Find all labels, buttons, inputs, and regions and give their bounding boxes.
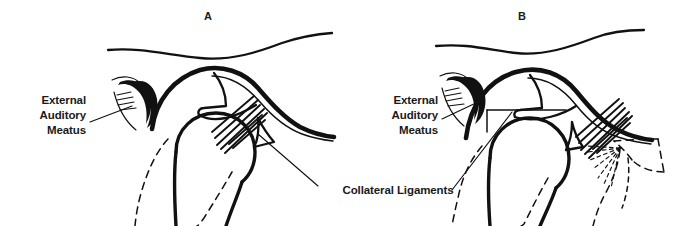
eam-right-line-1: External xyxy=(393,94,438,106)
eam-right-line-2: Auditory xyxy=(392,109,439,121)
annotation-collateral-ligaments: Collateral Ligaments xyxy=(342,184,453,196)
annotation-eam-right: External Auditory Meatus xyxy=(392,94,439,136)
eam-left-line-1: External xyxy=(41,94,86,106)
panel-letter-b: B xyxy=(518,10,526,22)
panel-letter-a: A xyxy=(204,10,212,22)
annotation-eam-left: External Auditory Meatus xyxy=(40,94,87,136)
eam-left-line-3: Meatus xyxy=(47,124,86,136)
condylar-neck-left-a xyxy=(175,152,177,226)
figure-canvas: A B External Auditory Meatus External Au… xyxy=(0,0,687,226)
anatomical-figure: A B External Auditory Meatus External Au… xyxy=(0,0,687,226)
eam-right-line-3: Meatus xyxy=(399,124,438,136)
condylar-neck-left-b xyxy=(489,158,491,226)
eam-left-line-2: Auditory xyxy=(40,109,87,121)
